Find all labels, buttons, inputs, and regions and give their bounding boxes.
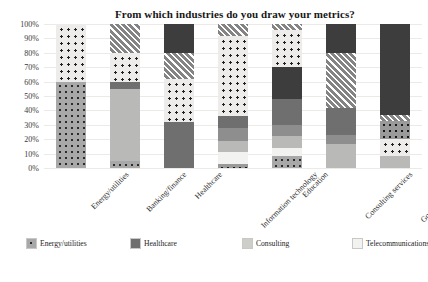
bar-segment-government[interactable] [380, 24, 410, 115]
x-axis-tick-label: Information technology [259, 170, 319, 230]
legend-label: Telecommunications [366, 239, 428, 248]
legend-item[interactable]: Energy/utilities [26, 236, 130, 250]
bar-segment-it[interactable] [56, 24, 86, 82]
bar-segment-energy[interactable] [56, 82, 86, 168]
bar-segment-banking[interactable] [326, 144, 356, 168]
y-axis-tick-label: 60% [24, 77, 39, 86]
bar-segment-transport[interactable] [218, 128, 248, 141]
bar-segment-transport[interactable] [272, 125, 302, 137]
x-axis-tick-label: Government/military [419, 170, 428, 224]
x-axis: Energy/utilitiesBanking/financeHealthcar… [44, 170, 422, 228]
y-axis-tick-label: 10% [24, 149, 39, 158]
bar-column[interactable] [164, 24, 194, 168]
x-axis-tick-label: Healthcare [193, 170, 224, 201]
y-axis-tick-label: 100% [20, 20, 39, 29]
bar-segment-it[interactable] [380, 139, 410, 156]
x-axis-tick-label: Consulting services [363, 170, 414, 221]
bar-segment-telecom[interactable] [272, 148, 302, 157]
bar-segment-banking[interactable] [380, 156, 410, 168]
bar-segment-banking[interactable] [272, 136, 302, 148]
legend-label: Consulting [256, 239, 289, 248]
bar-segment-profserv[interactable] [218, 24, 248, 36]
bar-segment-profserv[interactable] [110, 24, 140, 53]
bar-column[interactable] [218, 24, 248, 168]
y-axis-tick-label: 30% [24, 120, 39, 129]
legend-label: Energy/utilities [40, 239, 87, 248]
bar-segment-other[interactable] [380, 121, 410, 140]
y-axis-tick-label: 50% [24, 92, 39, 101]
bar-segment-it[interactable] [218, 36, 248, 117]
bar-segment-healthcare[interactable] [110, 82, 140, 89]
legend-swatch-telecom [352, 238, 363, 249]
legend-swatch-healthcare [130, 238, 141, 249]
bar-segment-it[interactable] [164, 79, 194, 122]
y-axis-tick-label: 80% [24, 48, 39, 57]
y-axis-tick-label: 90% [24, 34, 39, 43]
bar-segment-energy[interactable] [110, 161, 140, 168]
legend-item[interactable]: Healthcare [130, 236, 242, 250]
bar-segment-healthcare[interactable] [218, 116, 248, 128]
bar-column[interactable] [272, 24, 302, 168]
y-axis-tick-label: 20% [24, 135, 39, 144]
bar-segment-healthcare[interactable] [164, 122, 194, 168]
bar-segment-healthcare[interactable] [272, 99, 302, 125]
bar-segment-profserv[interactable] [164, 53, 194, 79]
bar-segment-healthcare[interactable] [326, 108, 356, 135]
legend-label: Healthcare [144, 239, 177, 248]
bar-column[interactable] [110, 24, 140, 168]
bar-segment-it[interactable] [272, 30, 302, 67]
bar-segment-profserv[interactable] [326, 53, 356, 108]
legend-item[interactable]: Telecommunications [352, 236, 428, 250]
bar-segment-banking[interactable] [218, 141, 248, 153]
chart-container: From which industries do you draw your m… [0, 0, 428, 282]
chart-title: From which industries do you draw your m… [60, 8, 410, 20]
legend-item[interactable]: Consulting [242, 236, 352, 250]
bar-segment-other[interactable] [218, 164, 248, 168]
y-axis-tick-label: 0% [28, 164, 39, 173]
x-axis-tick-label: Banking/finance [144, 170, 188, 214]
bar-segment-banking[interactable] [110, 89, 140, 161]
bar-segment-government[interactable] [272, 67, 302, 99]
bar-segment-government[interactable] [164, 24, 194, 53]
bar-segment-transport[interactable] [326, 135, 356, 144]
gridline [44, 168, 422, 169]
y-axis-tick-label: 40% [24, 106, 39, 115]
plot-area [44, 24, 422, 168]
legend-swatch-consulting [242, 238, 253, 249]
bar-segment-telecom[interactable] [218, 152, 248, 164]
bar-segment-energy[interactable] [272, 156, 302, 168]
bar-segment-it[interactable] [110, 53, 140, 82]
bar-group [44, 24, 422, 168]
x-axis-tick-label: Energy/utilities [89, 170, 130, 211]
bar-column[interactable] [56, 24, 86, 168]
legend-swatch-energy [26, 238, 37, 249]
bar-segment-government[interactable] [326, 24, 356, 53]
bar-column[interactable] [380, 24, 410, 168]
y-axis: 0%10%20%30%40%50%60%70%80%90%100% [0, 24, 42, 168]
y-axis-tick-label: 70% [24, 63, 39, 72]
chart-legend: Energy/utilitiesHealthcareConsultingTele… [26, 236, 422, 280]
bar-column[interactable] [326, 24, 356, 168]
